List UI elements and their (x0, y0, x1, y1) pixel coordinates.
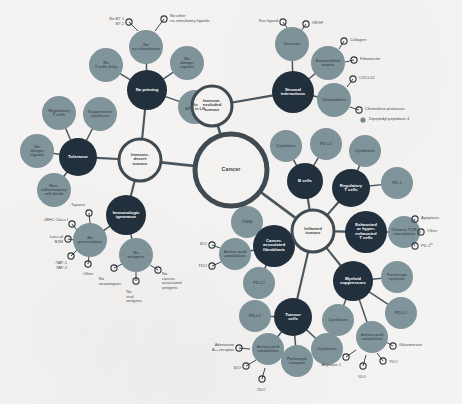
factor-node-f-pd1-treg[interactable] (381, 167, 413, 199)
annotation-stem-a-fibro (345, 60, 354, 62)
annotation-stem-a-tapasin (89, 213, 90, 223)
edge-hub-desert (161, 162, 193, 166)
edge-tumourcells-f-purin-t (295, 335, 296, 346)
factor-node-f-cyto-treg[interactable] (349, 135, 381, 167)
edge-no-priming-f-tcellhelp (120, 73, 131, 80)
factor-node-f-danger2[interactable] (20, 134, 54, 168)
diagram-canvas: CancerImmune- desert tumourImmune- exclu… (0, 0, 462, 404)
edge-inflamed-treg (327, 201, 339, 214)
edge-tolerance-f-suppcyto (86, 128, 93, 141)
mechanism-node-no-priming[interactable] (127, 70, 167, 110)
factor-node-f-aac-caf[interactable] (219, 238, 251, 270)
edge-inflamed-bcells (308, 198, 310, 210)
edge-tolerance-f-treg1 (65, 128, 71, 141)
factor-node-f-costim[interactable] (129, 30, 163, 64)
mechanism-node-myeloid[interactable] (333, 261, 373, 301)
factor-node-f-suppcyto[interactable] (83, 97, 117, 131)
edge-excluded-stromal (232, 95, 273, 102)
factor-node-f-aac-t[interactable] (252, 333, 284, 365)
factor-node-f-pdl1-m[interactable] (385, 297, 417, 329)
annotation-stem-a-costim-l (155, 19, 164, 31)
factor-node-f-danger1[interactable] (170, 46, 204, 80)
factor-node-f-purin-t[interactable] (281, 345, 313, 377)
hub-node-cancer[interactable] (195, 134, 267, 206)
edge-myeloid-f-pdl1-m (369, 292, 389, 305)
edge-tolerance-f-noninfl (63, 172, 67, 178)
edge-tolerance-f-danger2 (53, 153, 60, 154)
mechanism-node-caf[interactable] (253, 225, 295, 267)
mechanism-node-exhausted[interactable] (345, 211, 387, 253)
factor-node-f-pdl1-t[interactable] (239, 300, 271, 332)
edge-desert-no-priming (142, 109, 145, 139)
edge-desert-tolerance (96, 158, 119, 159)
edge-treg-f-pd1-treg (369, 185, 382, 186)
edge-stromal-f-ecm (308, 73, 315, 79)
annotation-dot-d-dpp4[interactable] (360, 117, 365, 122)
factor-node-f-cyto-m[interactable] (322, 304, 354, 336)
annotation-stem-a-aden (239, 348, 250, 349)
factor-node-f-cyto-t[interactable] (311, 333, 343, 365)
phenotype-node-inflamed[interactable] (292, 210, 334, 252)
factor-node-f-noninfl[interactable] (37, 173, 71, 207)
factor-node-f-vascular[interactable] (275, 27, 309, 61)
edge-tumourcells-f-aac-t (277, 331, 282, 337)
edge-inflamed-tumourcells (297, 252, 308, 300)
diagram-graphics (0, 0, 462, 404)
factor-node-f-chemokines[interactable] (317, 83, 351, 117)
phenotype-node-excluded[interactable] (192, 86, 232, 126)
mechanism-node-tolerance[interactable] (59, 138, 97, 176)
mechanism-node-ignorance[interactable] (106, 195, 146, 235)
factor-node-f-pdl1-caf[interactable] (243, 267, 275, 299)
factor-node-f-pdl1-b[interactable] (310, 128, 342, 160)
edge-bcells-f-cyto-b (293, 159, 297, 166)
edge-hub-inflamed (261, 192, 296, 218)
annotation-stem-a-tdo-caf (212, 262, 221, 266)
factor-node-f-cyto-b[interactable] (270, 130, 302, 162)
factor-node-f-treg1[interactable] (42, 96, 76, 130)
mechanism-node-stromal[interactable] (272, 71, 314, 113)
factor-node-f-tcellhelp[interactable] (89, 48, 123, 82)
edge-hub-excluded (218, 126, 220, 134)
mechanism-node-tumourcells[interactable] (274, 298, 312, 336)
annotation-stem-a-b7 (129, 22, 138, 31)
edge-myeloid-f-purin-m (372, 278, 382, 279)
phenotype-node-desert[interactable] (119, 139, 161, 181)
edge-bcells-f-pdl1-b (313, 157, 318, 166)
edge-ignorance-f-nopres (103, 226, 110, 231)
mechanism-node-treg[interactable] (332, 169, 370, 207)
edge-no-priming-f-danger1 (163, 72, 174, 79)
edge-myeloid-f-aac-m (359, 299, 367, 323)
edge-tumourcells-f-cyto-t (306, 329, 316, 338)
edge-inflamed-myeloid (326, 248, 341, 266)
annotation-stem-a-other-p (88, 256, 89, 264)
edge-no-priming-f-apcln (165, 96, 180, 101)
factor-node-f-nopres[interactable] (73, 223, 107, 257)
edge-desert-ignorance (131, 181, 135, 197)
factor-node-f-ecm[interactable] (311, 46, 345, 80)
edge-myeloid-f-cyto-m (343, 299, 346, 306)
mechanism-node-bcells[interactable] (287, 163, 323, 199)
factor-node-f-purin-m[interactable] (381, 261, 413, 293)
factor-node-f-aac-m[interactable] (356, 321, 388, 353)
annotation-stem-a-arg1 (346, 350, 356, 357)
factor-node-f-noantigen[interactable] (119, 238, 153, 272)
